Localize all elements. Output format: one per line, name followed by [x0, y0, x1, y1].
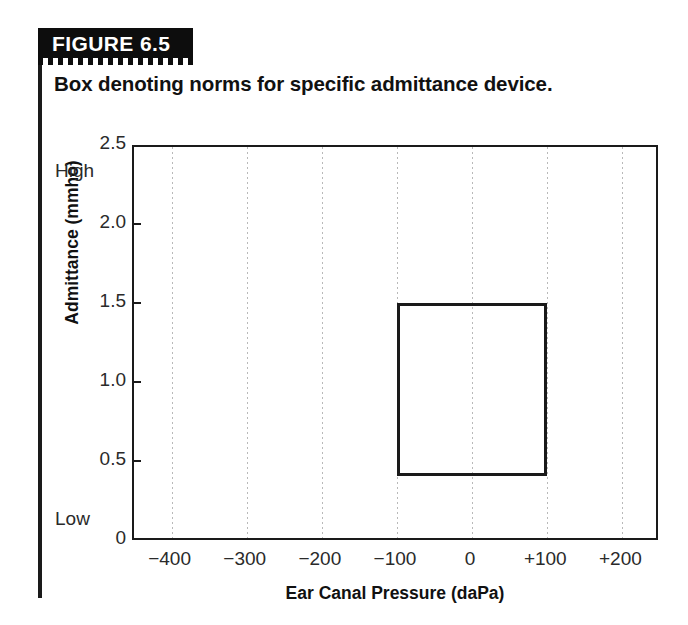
y-tick-label-1: 0.5: [100, 448, 126, 470]
y-tick-mark-2: [132, 381, 141, 383]
gridline-x-1: [247, 147, 248, 538]
norm-box-region: [397, 303, 547, 475]
figure-number-label: FIGURE 6.5: [52, 32, 170, 56]
y-axis-high-label: High: [55, 160, 94, 182]
x-tick-label-6: +200: [580, 548, 660, 570]
x-tick-label-2: −200: [280, 548, 360, 570]
y-axis-low-label: Low: [55, 508, 90, 530]
x-tick-label-5: +100: [505, 548, 585, 570]
plot-frame: [132, 145, 658, 540]
x-tick-label-3: −100: [355, 548, 435, 570]
x-axis-title: Ear Canal Pressure (daPa): [132, 583, 658, 604]
gridline-x-5: [547, 147, 548, 538]
x-tick-label-4: 0: [430, 548, 510, 570]
y-tick-label-5: 2.5: [100, 132, 126, 154]
figure-banner: FIGURE 6.5: [38, 28, 193, 58]
y-tick-mark-3: [132, 302, 141, 304]
y-tick-mark-4: [132, 223, 141, 225]
figure-left-rule: [38, 28, 42, 598]
gridline-x-6: [622, 147, 623, 538]
y-tick-label-4: 2.0: [100, 211, 126, 233]
y-tick-mark-1: [132, 460, 141, 462]
y-tick-label-3: 1.5: [100, 290, 126, 312]
figure-caption: Box denoting norms for specific admittan…: [54, 72, 664, 96]
x-tick-label-1: −300: [205, 548, 285, 570]
gridline-x-0: [172, 147, 173, 538]
figure-banner-sawtooth-edge: [38, 58, 193, 65]
y-tick-label-0: 0: [115, 527, 126, 549]
y-tick-label-2: 1.0: [100, 369, 126, 391]
x-tick-label-0: −400: [130, 548, 210, 570]
gridline-x-2: [322, 147, 323, 538]
